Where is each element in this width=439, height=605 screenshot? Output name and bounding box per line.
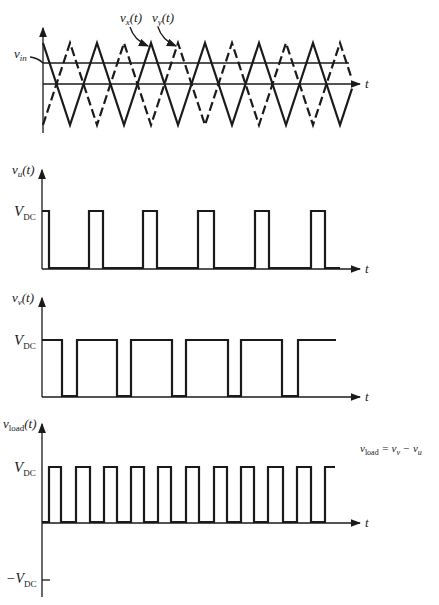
vy-pointer	[158, 27, 176, 46]
vv-panel: vv(t) VDC t	[12, 290, 369, 404]
vv-t-label: t	[365, 389, 369, 404]
vload-vdc-label: VDC	[14, 459, 36, 478]
vload-t-label: t	[365, 515, 369, 530]
pwm-waveform-figure: vin vx(t) vy(t) t vu(t) VDC t vv(t)	[0, 0, 439, 605]
vy-label: vy(t)	[152, 10, 174, 27]
vx-label: vx(t)	[120, 10, 142, 27]
vu-y-label: vu(t)	[12, 162, 35, 179]
carrier-panel: vin vx(t) vy(t) t	[14, 10, 369, 133]
carrier-t-label: t	[365, 76, 369, 91]
vv-pulse-wave	[42, 340, 336, 396]
vload-pulse-wave	[42, 467, 335, 522]
vu-panel: vu(t) VDC t	[12, 162, 369, 276]
vin-pointer	[30, 57, 43, 63]
vload-neg-vdc-label: −VDC	[6, 571, 37, 589]
vx-pointer	[130, 27, 148, 46]
vin-label: vin	[14, 46, 27, 63]
vv-y-label: vv(t)	[12, 290, 34, 307]
vu-t-label: t	[365, 261, 369, 276]
vload-y-label: vload(t)	[3, 416, 37, 433]
vload-panel: vload(t) VDC −VDC t vload = vv − vu	[3, 416, 422, 597]
vload-equation: vload = vv − vu	[360, 442, 422, 457]
vu-pulse-wave	[42, 211, 340, 268]
vu-vdc-label: VDC	[14, 203, 36, 222]
vv-vdc-label: VDC	[14, 332, 36, 351]
